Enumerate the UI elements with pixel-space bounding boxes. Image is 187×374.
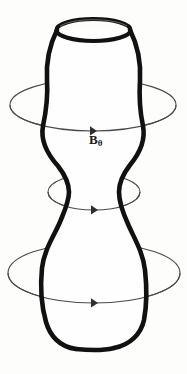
plasma-column-diagram [0,0,187,374]
column-bottom-cap [76,348,114,350]
azimuthal-field-symbol: B [89,132,98,147]
azimuthal-field-subscript: θ [98,138,103,148]
azimuthal-field-label: Bθ [89,133,102,148]
plasma-instability-figure: Bθ [0,0,187,374]
